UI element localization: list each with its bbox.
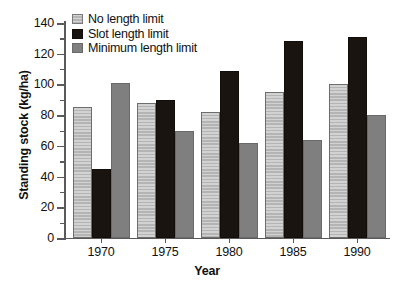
y-tick-label-140: 140: [18, 16, 54, 30]
y-tick-label-80: 80: [18, 108, 54, 122]
bar-1975-minimum-length-limit[interactable]: [175, 131, 194, 239]
x-tick-label-1970: 1970: [66, 245, 136, 259]
legend-item-no-length-limit[interactable]: No length limit: [72, 12, 197, 27]
y-tick-20: [57, 207, 64, 209]
y-tick-80: [57, 115, 64, 117]
bar-group-1980: [198, 23, 260, 238]
bar-1980-slot-length-limit[interactable]: [220, 71, 239, 238]
y-tick-label-20: 20: [18, 200, 54, 214]
bar-1975-no-length-limit[interactable]: [137, 103, 156, 238]
hatched-light-gray-swatch-icon: [72, 14, 83, 24]
x-tick-label-1980: 1980: [194, 245, 264, 259]
bar-1990-minimum-length-limit[interactable]: [367, 115, 386, 238]
y-tick-label-0: 0: [18, 231, 54, 245]
bar-chart-figure: Standing stock (kg/ha) 140 120 100 80 60…: [0, 0, 414, 293]
y-axis-tick-labels: 140 120 100 80 60 40 20 0: [14, 0, 54, 293]
x-tick-1980: [229, 238, 230, 243]
bar-1970-no-length-limit[interactable]: [73, 107, 92, 238]
bar-1970-minimum-length-limit[interactable]: [111, 83, 130, 238]
bar-1985-slot-length-limit[interactable]: [284, 41, 303, 238]
x-tick-1990: [357, 238, 358, 243]
legend-label-minimum-length-limit: Minimum length limit: [88, 41, 197, 55]
y-tick-60: [57, 146, 64, 148]
medium-gray-swatch-icon: [72, 43, 83, 53]
x-tick-1975: [165, 238, 166, 243]
y-tick-label-40: 40: [18, 170, 54, 184]
bar-1990-slot-length-limit[interactable]: [348, 37, 367, 238]
legend-item-slot-length-limit[interactable]: Slot length limit: [72, 27, 197, 42]
x-tick-1985: [293, 238, 294, 243]
y-tick-label-100: 100: [18, 77, 54, 91]
bar-1970-slot-length-limit[interactable]: [92, 169, 111, 238]
x-tick-label-1975: 1975: [130, 245, 200, 259]
y-tick-label-120: 120: [18, 47, 54, 61]
bar-group-1985: [262, 23, 324, 238]
x-tick-label-1990: 1990: [322, 245, 392, 259]
x-tick-1970: [101, 238, 102, 243]
bar-1980-minimum-length-limit[interactable]: [239, 143, 258, 238]
y-tick-120: [57, 54, 64, 56]
y-tick-100: [57, 84, 64, 86]
x-tick-label-1985: 1985: [258, 245, 328, 259]
bar-1985-no-length-limit[interactable]: [265, 92, 284, 238]
bar-1990-no-length-limit[interactable]: [329, 84, 348, 238]
bar-1985-minimum-length-limit[interactable]: [303, 140, 322, 238]
legend-label-slot-length-limit: Slot length limit: [88, 27, 169, 41]
chart-legend: No length limit Slot length limit Minimu…: [72, 12, 197, 56]
bar-1975-slot-length-limit[interactable]: [156, 100, 175, 238]
bar-group-1990: [326, 23, 388, 238]
legend-item-minimum-length-limit[interactable]: Minimum length limit: [72, 41, 197, 56]
y-tick-40: [57, 177, 64, 179]
legend-label-no-length-limit: No length limit: [88, 12, 163, 26]
black-swatch-icon: [72, 29, 83, 39]
x-axis-title: Year: [0, 264, 414, 278]
y-tick-label-60: 60: [18, 139, 54, 153]
bar-1980-no-length-limit[interactable]: [201, 112, 220, 238]
y-tick-140: [57, 23, 64, 25]
